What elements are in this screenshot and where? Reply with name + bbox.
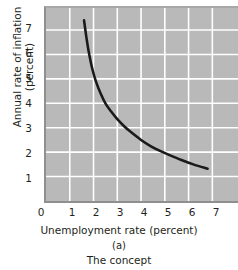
x-axis-tick-7: 7: [209, 207, 223, 218]
y-axis-tick-2: 2: [18, 148, 32, 159]
x-axis-tick-0: 0: [34, 207, 48, 218]
x-axis-tick-6: 6: [185, 207, 199, 218]
x-axis-tick-4: 4: [137, 207, 151, 218]
y-axis-tick-1: 1: [18, 173, 32, 184]
y-axis-title: Annual rate of inflation (percent): [8, 0, 38, 142]
y-axis-title-line1: Annual rate of inflation: [11, 7, 23, 128]
x-axis-title: Unemployment rate (percent): [0, 224, 238, 236]
x-axis-tick-5: 5: [161, 207, 175, 218]
x-axis-tick-1: 1: [65, 207, 79, 218]
plot-area: [44, 6, 238, 203]
x-axis-tick-2: 2: [89, 207, 103, 218]
phillips-curve-line: [46, 8, 238, 201]
figure-caption: The concept: [0, 254, 238, 266]
phillips-curve-figure: 7 6 5 4 3 2 1 0 1 2 3 4 5 6 7 Annual rat…: [0, 0, 238, 270]
y-axis-title-line2: (percent): [23, 43, 35, 91]
x-axis-tick-3: 3: [113, 207, 127, 218]
panel-letter: (a): [0, 240, 238, 251]
